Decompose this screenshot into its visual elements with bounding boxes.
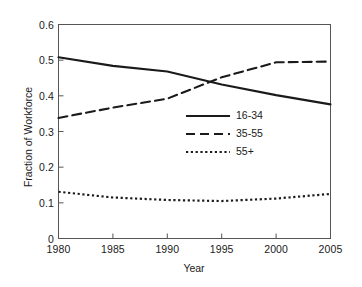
x-axis-title: Year bbox=[58, 262, 330, 274]
legend-entry-label: 16-34 bbox=[236, 109, 263, 121]
series-line-35-55 bbox=[59, 62, 331, 118]
x-tick-label: 1985 bbox=[101, 243, 125, 255]
chart-figure: 00.10.20.30.40.50.6 19801985199019952000… bbox=[0, 0, 362, 287]
x-tick-label: 2000 bbox=[264, 243, 288, 255]
series-line-55plus bbox=[59, 192, 331, 201]
x-tick-label: 1980 bbox=[47, 243, 71, 255]
axes-frame bbox=[59, 25, 331, 239]
legend-entry-label: 55+ bbox=[236, 145, 254, 157]
x-tick-label: 2005 bbox=[319, 243, 343, 255]
x-tick-label: 1995 bbox=[210, 243, 234, 255]
tick-marks bbox=[59, 25, 331, 239]
y-tick-label: 0.6 bbox=[20, 19, 54, 31]
legend-line-samples bbox=[186, 116, 230, 152]
plot-border bbox=[59, 25, 331, 239]
x-tick-label: 1990 bbox=[155, 243, 179, 255]
legend-entry-label: 35-55 bbox=[236, 127, 263, 139]
series-line-16-34 bbox=[59, 57, 331, 104]
y-axis-title: Fraction of Workforce bbox=[22, 62, 34, 212]
series-lines bbox=[59, 57, 331, 201]
